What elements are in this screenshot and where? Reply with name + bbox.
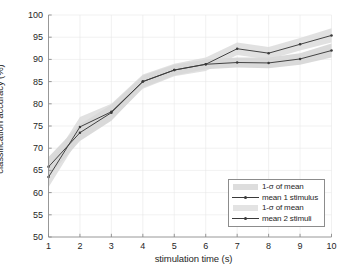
legend-item-label: mean 1 stimulus xyxy=(262,193,318,204)
marker-series-2 xyxy=(330,34,333,37)
legend-item-label: 1-σ of mean xyxy=(262,182,304,193)
marker-series-2 xyxy=(142,80,145,83)
marker-series-2 xyxy=(204,63,207,66)
legend-item[interactable]: mean 1 stimulus xyxy=(232,193,321,204)
marker-series-2 xyxy=(267,52,270,55)
band-series-2 xyxy=(49,28,332,187)
legend-line-swatch xyxy=(232,193,259,202)
marker-series-1 xyxy=(79,131,82,134)
marker-series-1 xyxy=(330,49,333,52)
legend-item[interactable]: 1-σ of mean xyxy=(232,203,321,214)
legend-line-swatch xyxy=(232,214,259,223)
marker-series-2 xyxy=(299,43,302,46)
marker-series-1 xyxy=(299,58,302,61)
plot-area xyxy=(0,0,354,274)
marker-series-1 xyxy=(236,61,239,64)
band-swatch xyxy=(233,205,258,211)
legend-item-label: mean 2 stimuli xyxy=(262,214,311,225)
legend-band-swatch xyxy=(232,204,259,213)
legend-item-label: 1-σ of mean xyxy=(262,203,304,214)
marker-series-2 xyxy=(173,69,176,72)
chart-legend: 1-σ of meanmean 1 stimulus1-σ of meanmea… xyxy=(228,179,325,227)
legend-item[interactable]: mean 2 stimuli xyxy=(232,214,321,225)
marker-series-2 xyxy=(236,47,239,50)
marker-swatch xyxy=(244,196,247,199)
legend-item[interactable]: 1-σ of mean xyxy=(232,182,321,193)
marker-series-1 xyxy=(267,62,270,64)
band-swatch xyxy=(233,184,258,190)
marker-swatch xyxy=(244,217,247,220)
chart-figure: classification accuracy (%) 100959085807… xyxy=(0,0,354,274)
marker-series-2 xyxy=(110,111,113,114)
legend-band-swatch xyxy=(232,183,259,192)
marker-series-2 xyxy=(79,126,82,129)
